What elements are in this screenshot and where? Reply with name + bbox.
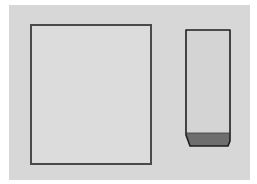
tall-container-shape xyxy=(185,29,231,147)
container-body xyxy=(186,30,230,133)
tall-container xyxy=(185,29,231,147)
container-base xyxy=(186,133,230,146)
large-rectangle xyxy=(30,24,152,165)
diagram-canvas xyxy=(0,0,257,184)
